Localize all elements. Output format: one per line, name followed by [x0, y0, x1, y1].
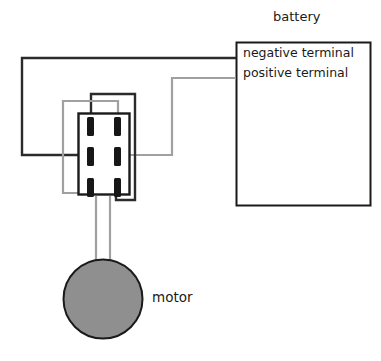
circuit-diagram: battery negative terminal positive termi… [0, 0, 381, 361]
terminal-middle-right[interactable] [114, 147, 121, 166]
motor-label: motor [152, 291, 193, 305]
switch-box[interactable] [79, 114, 130, 195]
battery-title-label: battery [273, 10, 320, 23]
positive-terminal-label: positive terminal [243, 67, 348, 80]
terminal-bottom-right[interactable] [114, 178, 121, 197]
negative-terminal-label: negative terminal [243, 47, 354, 60]
terminal-top-right[interactable] [114, 117, 121, 136]
motor-circle [64, 260, 143, 339]
terminal-bottom-left[interactable] [87, 178, 94, 197]
terminal-middle-left[interactable] [87, 147, 94, 166]
terminal-top-left[interactable] [87, 117, 94, 136]
